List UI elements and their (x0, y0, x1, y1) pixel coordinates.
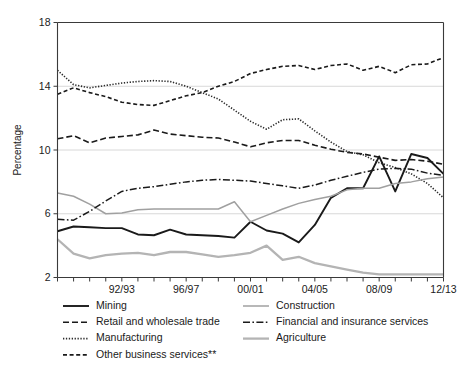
x-tick-label: 00/01 (237, 283, 263, 295)
y-tick-label: 2 (45, 271, 51, 283)
legend-label: Retail and wholesale trade (96, 315, 220, 327)
legend-label: Agriculture (276, 331, 326, 343)
series-line-financial-and-insurance-services (58, 168, 444, 220)
y-axis-title: Percentage (12, 124, 23, 176)
legend-label: Manufacturing (96, 331, 163, 343)
x-tick-label: 12/13 (430, 283, 456, 295)
y-tick-label: 10 (39, 144, 51, 156)
legend-item-financial-and-insurance-services[interactable]: Financial and insurance services (243, 315, 428, 327)
line-chart: 26101418 92/9396/9700/0104/0508/0912/13 … (0, 0, 469, 366)
legend-item-retail-and-wholesale-trade[interactable]: Retail and wholesale trade (63, 315, 220, 327)
x-axis-ticks: 92/9396/9700/0104/0508/0912/13 (58, 278, 457, 295)
data-series-layer (58, 58, 444, 275)
series-line-construction (58, 177, 444, 222)
series-line-retail-and-wholesale-trade (58, 130, 444, 164)
x-tick-label: 96/97 (173, 283, 199, 295)
x-tick-label: 08/09 (366, 283, 392, 295)
legend-label: Financial and insurance services (276, 315, 428, 327)
x-tick-label: 04/05 (302, 283, 328, 295)
legend-item-manufacturing[interactable]: Manufacturing (63, 331, 163, 343)
legend-label: Other business services** (96, 348, 216, 360)
legend-item-construction[interactable]: Construction (243, 299, 335, 311)
chart-legend: MiningRetail and wholesale tradeManufact… (63, 299, 428, 360)
legend-item-other-business-services[interactable]: Other business services** (63, 348, 216, 360)
y-tick-label: 18 (39, 16, 51, 28)
y-axis-title-text: Percentage (12, 124, 23, 176)
legend-label: Mining (96, 299, 127, 311)
series-line-manufacturing (58, 70, 444, 198)
gridlines (58, 86, 444, 214)
series-line-agriculture (58, 239, 444, 274)
legend-item-agriculture[interactable]: Agriculture (243, 331, 326, 343)
legend-label: Construction (276, 299, 335, 311)
series-line-mining (58, 154, 444, 242)
y-tick-label: 6 (45, 207, 51, 219)
x-tick-label: 92/93 (109, 283, 135, 295)
chart-figure: 26101418 92/9396/9700/0104/0508/0912/13 … (0, 0, 469, 366)
series-line-other-business-services (58, 58, 444, 106)
legend-item-mining[interactable]: Mining (63, 299, 127, 311)
y-tick-label: 14 (39, 80, 51, 92)
y-axis-ticks: 26101418 (39, 16, 58, 283)
